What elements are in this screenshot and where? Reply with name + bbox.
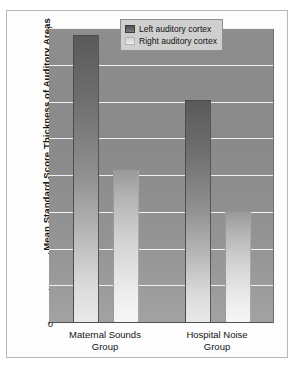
bar-left-auditory-cortex	[73, 35, 99, 323]
legend-item: Right auditory cortex	[125, 35, 217, 47]
legend-label: Right auditory cortex	[139, 36, 217, 46]
bar-right-auditory-cortex	[113, 170, 139, 324]
x-category-label-line: Maternal Sounds	[49, 329, 161, 341]
x-category-label-line: Group	[49, 341, 161, 353]
x-category-label: Maternal SoundsGroup	[49, 327, 161, 361]
left-cortex-swatch	[125, 25, 135, 33]
right-cortex-swatch	[125, 37, 135, 45]
x-category-label-line: Group	[161, 341, 273, 353]
chart-legend: Left auditory cortexRight auditory corte…	[120, 19, 223, 51]
figure-frame: Mean Standard Score Thickness of Auditor…	[6, 10, 288, 358]
bar-right-auditory-cortex	[225, 212, 251, 323]
legend-item: Left auditory cortex	[125, 23, 217, 35]
bar-left-auditory-cortex	[185, 100, 211, 323]
legend-label: Left auditory cortex	[139, 24, 211, 34]
x-category-label-line: Hospital Noise	[161, 329, 273, 341]
x-axis-category-labels: Maternal SoundsGroupHospital NoiseGroup	[49, 327, 273, 361]
x-category-label: Hospital NoiseGroup	[161, 327, 273, 361]
plot-area	[49, 29, 274, 323]
